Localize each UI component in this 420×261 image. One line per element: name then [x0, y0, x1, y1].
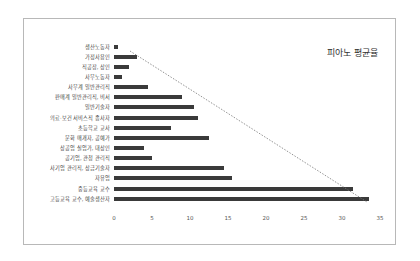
- bar: [114, 166, 224, 170]
- bar-row: 사무노동자: [0, 72, 420, 82]
- x-tick-label: 20: [263, 215, 270, 221]
- x-tick-label: 30: [339, 215, 346, 221]
- category-label: 사무노동자: [85, 72, 110, 82]
- category-label: 사무계 일반관리직: [68, 82, 110, 92]
- bar: [114, 116, 198, 120]
- bar-row: 초등학교 교사: [0, 123, 420, 133]
- x-tick-label: 5: [150, 215, 154, 221]
- bar-row: 문화 매개자, 공예가: [0, 133, 420, 143]
- category-label: 문화 매개자, 공예가: [65, 133, 110, 143]
- bar-row: 판매계 일반관리직, 비서: [0, 92, 420, 102]
- bar: [114, 136, 209, 140]
- bar: [114, 65, 129, 69]
- category-label: 의료·보건 서비스직 종사자: [50, 113, 110, 123]
- bar: [114, 45, 118, 49]
- bar-row: 사기업 관리직, 상급기술자: [0, 163, 420, 173]
- bar-row: 중등교육 교수: [0, 184, 420, 194]
- bar-row: 생산노동자: [0, 42, 420, 52]
- bar: [114, 85, 148, 89]
- category-label: 판매계 일반관리직, 비서: [55, 92, 110, 102]
- bar-row: 고등교육 교수, 예술생산자: [0, 194, 420, 204]
- bar-row: 공기업, 관청 관리직: [0, 153, 420, 163]
- category-label: 일반기술자: [85, 102, 110, 112]
- bar: [114, 55, 137, 59]
- category-label: 생산노동자: [85, 42, 110, 52]
- bar-row: 직공장, 상인: [0, 62, 420, 72]
- category-label: 가정사용인: [85, 52, 110, 62]
- x-tick-label: 0: [112, 215, 116, 221]
- category-label: 자유업: [95, 173, 110, 183]
- bar: [114, 75, 122, 79]
- bar: [114, 197, 369, 201]
- bar: [114, 105, 194, 109]
- category-label: 공기업, 관청 관리직: [65, 153, 110, 163]
- bar: [114, 146, 144, 150]
- bar: [114, 156, 152, 160]
- bar-row: 의료·보건 서비스직 종사자: [0, 113, 420, 123]
- category-label: 직공장, 상인: [82, 62, 110, 72]
- bar: [114, 187, 353, 191]
- x-tick-label: 35: [377, 215, 384, 221]
- bar-row: 자유업: [0, 173, 420, 183]
- category-label: 초등학교 교사: [78, 123, 110, 133]
- x-tick-label: 25: [301, 215, 308, 221]
- bar: [114, 95, 182, 99]
- bar-row: 사무계 일반관리직: [0, 82, 420, 92]
- category-label: 고등교육 교수, 예술생산자: [50, 194, 110, 204]
- category-label: 상공업 실업가, 대상인: [60, 143, 110, 153]
- category-label: 중등교육 교수: [78, 184, 110, 194]
- bar: [114, 176, 232, 180]
- bar-row: 가정사용인: [0, 52, 420, 62]
- bar-row: 일반기술자: [0, 102, 420, 112]
- bar-row: 상공업 실업가, 대상인: [0, 143, 420, 153]
- bar: [114, 126, 171, 130]
- category-label: 사기업 관리직, 상급기술자: [50, 163, 110, 173]
- x-tick-label: 15: [225, 215, 232, 221]
- x-tick-label: 10: [187, 215, 194, 221]
